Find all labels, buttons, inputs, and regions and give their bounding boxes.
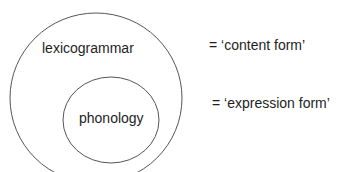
phonology-label: phonology xyxy=(79,110,144,126)
outer-ellipse xyxy=(10,13,182,172)
expression-form-gloss: = ‘expression form’ xyxy=(212,95,330,111)
content-form-gloss: = ‘content form’ xyxy=(209,37,305,53)
venn-diagram xyxy=(0,0,341,172)
lexicogrammar-label: lexicogrammar xyxy=(42,40,134,56)
